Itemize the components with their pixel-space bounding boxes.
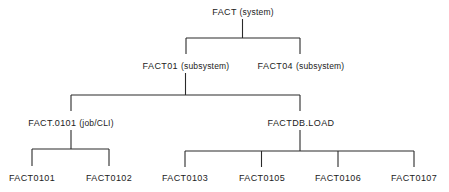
node-fact0101-job-qualifier: (job/CLI)	[79, 118, 113, 128]
node-fact01-qualifier: (subsystem)	[181, 61, 230, 71]
node-factdb-load: FACTDB.LOAD	[268, 118, 335, 128]
node-factdb-load-name: FACTDB.LOAD	[268, 118, 335, 128]
node-root-qualifier: (system)	[240, 7, 274, 17]
leaf-fact0107: FACT0107	[391, 173, 437, 183]
node-fact0101-job: FACT.0101 (job/CLI)	[28, 118, 113, 128]
node-fact01-name: FACT01	[143, 61, 178, 71]
leaf-fact0101: FACT0101	[9, 173, 55, 183]
node-fact01: FACT01 (subsystem)	[143, 61, 230, 71]
tree-connectors	[0, 0, 449, 192]
leaf-fact0106: FACT0106	[315, 173, 361, 183]
node-fact04-qualifier: (subsystem)	[296, 61, 345, 71]
leaf-fact0102: FACT0102	[86, 173, 132, 183]
node-fact0101-job-name: FACT.0101	[28, 118, 76, 128]
leaf-fact0105: FACT0105	[239, 173, 285, 183]
leaf-fact0103: FACT0103	[162, 173, 208, 183]
node-fact04-name: FACT04	[258, 61, 293, 71]
node-fact04: FACT04 (subsystem)	[258, 61, 345, 71]
node-root-name: FACT	[212, 7, 236, 17]
node-root: FACT (system)	[212, 7, 274, 17]
